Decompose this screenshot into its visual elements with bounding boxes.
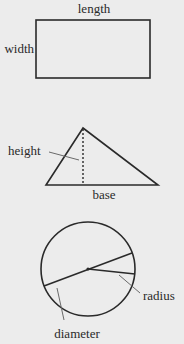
center-point — [86, 267, 89, 270]
diameter-leader-line — [57, 288, 64, 320]
base-label: base — [92, 187, 115, 202]
height-label: height — [8, 143, 41, 158]
circle-figure: radius diameter — [41, 222, 175, 341]
radius-line — [88, 269, 135, 274]
diameter-label: diameter — [54, 326, 100, 341]
geometry-diagram: length width height base radius diameter — [0, 0, 184, 344]
length-label: length — [78, 1, 111, 16]
rectangle-shape — [36, 20, 150, 78]
height-leader-line — [49, 152, 79, 160]
triangle-shape — [46, 128, 158, 185]
triangle-figure: height base — [8, 128, 158, 202]
radius-label: radius — [143, 288, 175, 303]
rectangle-figure: length width — [4, 1, 150, 78]
width-label: width — [4, 41, 34, 56]
